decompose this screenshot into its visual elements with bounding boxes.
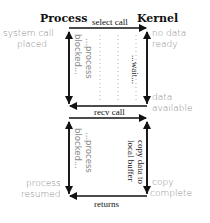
no-data-note-2: ready bbox=[152, 39, 178, 49]
copy-complete-note: copy bbox=[152, 177, 174, 187]
copy-complete-note-2: complete bbox=[150, 188, 192, 198]
select-recv-diagram: Process Kernel select call recv call sys… bbox=[0, 0, 210, 223]
data-available-note: data bbox=[152, 92, 172, 102]
data-available-note-2: available bbox=[152, 103, 193, 113]
process-label-bottom-a: ...process bbox=[84, 132, 94, 173]
process-resumed-note-2: resumed bbox=[21, 189, 60, 199]
no-data-note: no data bbox=[152, 28, 186, 38]
select-call-label: select call bbox=[92, 17, 128, 27]
recv-call-label: recv call bbox=[94, 107, 125, 117]
process-label-top-a: ...process bbox=[84, 38, 94, 79]
process-label-bottom-b: blocked... bbox=[73, 128, 83, 169]
kernel-copy-label-a: copy data to bbox=[136, 140, 146, 184]
syscall-placed-note: system call bbox=[3, 28, 54, 38]
kernel-copy-label-b: local buffer bbox=[126, 140, 136, 182]
returns-label: returns bbox=[94, 199, 119, 209]
process-resumed-note: process bbox=[26, 178, 61, 188]
kernel-wait-label: ...wait... bbox=[130, 55, 140, 84]
process-label-top-b: blocked... bbox=[73, 34, 83, 75]
kernel-header: Kernel bbox=[137, 12, 178, 25]
process-header: Process bbox=[40, 12, 88, 25]
syscall-placed-note-2: placed bbox=[17, 39, 47, 49]
